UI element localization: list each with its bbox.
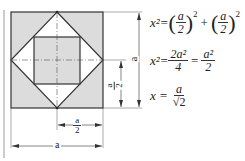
equation-2: x²= 2a²4 = a²2 <box>150 48 215 73</box>
label-half-width: a2 <box>73 116 82 135</box>
equation-3: x = a√2 <box>150 83 187 108</box>
label-outer-height: a <box>129 56 139 62</box>
label-half-height: a2 <box>105 81 124 90</box>
equation-1: x²= ( a2 ) 2 + ( a2 ) 2 <box>150 10 240 35</box>
label-outer-width: a <box>53 140 61 150</box>
